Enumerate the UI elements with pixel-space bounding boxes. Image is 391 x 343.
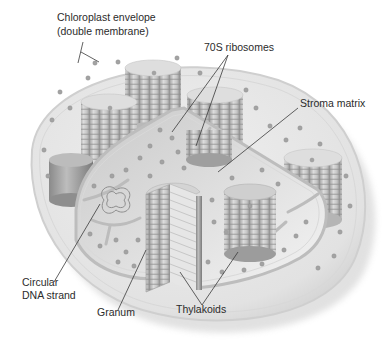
granum-inner-right [224, 184, 276, 262]
leader-envelope [78, 42, 99, 63]
label-envelope-line2: (double membrane) [57, 25, 149, 38]
granum-sectioned [146, 183, 202, 292]
label-granum: Granum [97, 306, 135, 319]
label-envelope-line1: Chloroplast envelope [57, 11, 156, 24]
label-dna-line1: Circular [22, 276, 58, 289]
label-ribosomes: 70S ribosomes [204, 41, 274, 54]
label-thylakoids: Thylakoids [176, 303, 226, 316]
label-dna-line2: DNA strand [22, 289, 76, 302]
label-stroma-matrix: Stroma matrix [300, 97, 365, 110]
granum-inner-upper [186, 130, 232, 167]
